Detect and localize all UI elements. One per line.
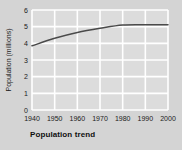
y-tick-label: 3 bbox=[24, 57, 28, 64]
y-tick-label: 4 bbox=[24, 40, 28, 47]
y-tick-label: 1 bbox=[24, 90, 28, 97]
chart-figure: 1940195019601970198019902000 0123456 Pop… bbox=[0, 0, 182, 150]
population-trend-line-chart: 1940195019601970198019902000 0123456 Pop… bbox=[0, 0, 182, 150]
x-tick-label: 1960 bbox=[70, 115, 86, 122]
x-tick-label: 1950 bbox=[47, 115, 63, 122]
y-tick-label: 5 bbox=[24, 23, 28, 30]
x-tick-label: 1980 bbox=[115, 115, 131, 122]
y-tick-label: 0 bbox=[24, 107, 28, 114]
x-tick-label: 1970 bbox=[92, 115, 108, 122]
y-axis-label: Population (millions) bbox=[5, 28, 13, 91]
x-tick-label: 1990 bbox=[138, 115, 154, 122]
y-tick-label: 2 bbox=[24, 73, 28, 80]
x-tick-label: 2000 bbox=[160, 115, 176, 122]
x-tick-label: 1940 bbox=[24, 115, 40, 122]
chart-title: Population trend bbox=[30, 130, 95, 139]
chart-plot-area: 1940195019601970198019902000 0123456 Pop… bbox=[0, 0, 182, 150]
y-tick-label: 6 bbox=[24, 7, 28, 14]
